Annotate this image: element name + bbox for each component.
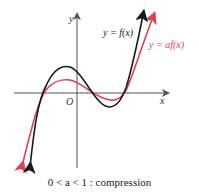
transformed-curve-label: y = af(x) <box>148 39 185 51</box>
caption: 0 < a < 1 : compression <box>0 176 199 188</box>
x-axis-label: x <box>159 95 165 106</box>
y-axis-label: y <box>68 13 74 24</box>
transformed-curve <box>22 17 153 166</box>
origin-label: O <box>66 96 73 107</box>
original-curve-label: y = f(x) <box>102 27 134 39</box>
graph-canvas: y x O y = f(x) y = af(x) <box>0 0 199 192</box>
